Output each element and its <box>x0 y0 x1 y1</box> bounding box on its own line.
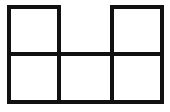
grid-diagram: Outline drawing of a six-cell square gri… <box>0 0 170 112</box>
figure-canvas: Outline drawing of a six-cell square gri… <box>0 0 170 112</box>
